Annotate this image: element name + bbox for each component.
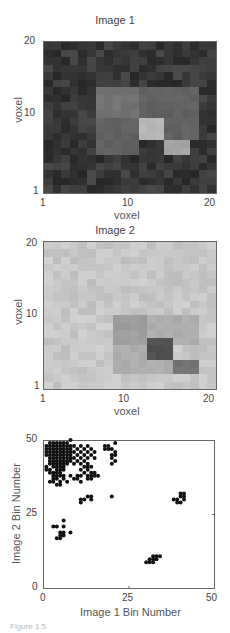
- scatter-point: [82, 459, 86, 463]
- scatter-point: [75, 477, 79, 481]
- scatter-point: [58, 483, 62, 487]
- scatter-point: [86, 456, 90, 460]
- chart2-ytick-mid: 10: [26, 308, 37, 319]
- scatter-point: [79, 450, 83, 454]
- scatter-point: [69, 438, 73, 442]
- scatter-point: [96, 474, 100, 478]
- scatter-point: [113, 459, 117, 463]
- scatter-point: [110, 456, 114, 460]
- scatter-point: [82, 447, 86, 451]
- scatter-point: [155, 557, 159, 561]
- scatter-point: [110, 495, 114, 499]
- scatter-point: [89, 477, 93, 481]
- scatter-point: [82, 471, 86, 475]
- scatter-point: [44, 453, 48, 457]
- chart1-ytick-mid: 10: [24, 107, 35, 118]
- scatter-point: [51, 465, 55, 469]
- chart3-ylabel: Image 2 Bin Number: [10, 464, 22, 564]
- scatter-point: [65, 462, 69, 466]
- chart3-ytick-bottom: 0: [32, 581, 38, 592]
- scatter-point: [110, 447, 114, 451]
- scatter-point: [72, 450, 76, 454]
- scatter-point: [69, 459, 73, 463]
- scatter-point: [69, 474, 73, 478]
- chart2-xtick-right: 20: [203, 393, 214, 404]
- chart2-ytick-bottom: 1: [34, 380, 40, 391]
- scatter-point: [113, 453, 117, 457]
- scatter-point: [72, 462, 76, 466]
- scatter-point: [86, 444, 90, 448]
- chart1-xlabel: voxel: [114, 209, 140, 221]
- scatter-point: [89, 447, 93, 451]
- scatter-point: [79, 468, 83, 472]
- scatter-point: [79, 501, 83, 505]
- scatter-point: [89, 498, 93, 502]
- scatter-point: [79, 462, 83, 466]
- scatter-point: [75, 453, 79, 457]
- scatter-point: [158, 554, 162, 558]
- scatter-point: [75, 459, 79, 463]
- scatter-point: [55, 524, 59, 528]
- scatter-point: [172, 498, 176, 502]
- scatter-point: [89, 453, 93, 457]
- scatter-point: [110, 462, 114, 466]
- chart1-ytick-top: 20: [24, 35, 35, 46]
- scatter-point: [179, 501, 183, 505]
- scatter-point: [82, 453, 86, 457]
- scatter-point: [62, 468, 66, 472]
- scatter-point: [62, 524, 66, 528]
- scatter-point: [65, 480, 69, 484]
- scatter-point: [79, 444, 83, 448]
- scatter-point: [69, 530, 73, 534]
- chart3-xlabel: Image 1 Bin Number: [80, 606, 181, 618]
- scatter-point: [86, 450, 90, 454]
- chart2-xtick-mid: 10: [118, 393, 129, 404]
- figure-caption: Figure 1.5: [10, 622, 46, 631]
- scatter-point: [93, 456, 97, 460]
- scatter-point: [79, 474, 83, 478]
- scatter-point: [79, 456, 83, 460]
- scatter-point: [103, 447, 107, 451]
- scatter-point: [51, 480, 55, 484]
- scatter-point: [82, 498, 86, 502]
- chart2-frame: [43, 241, 217, 390]
- chart2-xtick-left: 1: [40, 393, 46, 404]
- chart1-title: Image 1: [0, 14, 230, 26]
- scatter-point: [148, 557, 152, 561]
- scatter-point: [151, 557, 155, 561]
- scatter-point: [72, 444, 76, 448]
- scatter-point: [89, 465, 93, 469]
- chart2-xlabel: voxel: [114, 405, 140, 417]
- chart3-xtick-right: 50: [206, 592, 217, 603]
- chart3-ytick-mid: 25: [26, 507, 37, 518]
- chart1-ylabel: voxel: [12, 90, 24, 130]
- chart1-xtick-left: 1: [40, 197, 46, 208]
- chart1-xtick-right: 20: [204, 197, 215, 208]
- scatter-point: [72, 456, 76, 460]
- chart2-ytick-top: 20: [26, 237, 37, 248]
- scatter-point: [75, 447, 79, 451]
- scatter-point: [182, 492, 186, 496]
- scatter-point: [175, 501, 179, 505]
- chart2-title: Image 2: [0, 224, 230, 236]
- chart3-xtick-mid: 25: [122, 592, 133, 603]
- scatter-point: [113, 441, 117, 445]
- chart1-xtick-mid: 10: [122, 197, 133, 208]
- chart1-ytick-bottom: 1: [33, 185, 39, 196]
- scatter-point: [86, 495, 90, 499]
- scatter-point: [86, 477, 90, 481]
- chart3-xtick-left: 0: [40, 592, 46, 603]
- scatter-point: [144, 560, 148, 564]
- scatter-point: [79, 480, 83, 484]
- scatter-point: [86, 468, 90, 472]
- scatter-point: [182, 498, 186, 502]
- scatter-point: [62, 533, 66, 537]
- chart1-frame: [43, 41, 217, 194]
- chart3-ytick-top: 50: [26, 433, 37, 444]
- scatter-point: [44, 468, 48, 472]
- scatter-point: [51, 524, 55, 528]
- scatter-point: [62, 519, 66, 523]
- scatter-point: [62, 477, 66, 481]
- scatter-point: [93, 450, 97, 454]
- chart3-scatter-points: [43, 440, 215, 589]
